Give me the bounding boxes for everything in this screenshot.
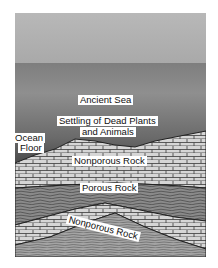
porous-rock-label: Porous Rock [80,183,138,193]
nonporous-rock-top-label: Nonporous Rock [72,156,147,166]
strata-illustration: Ancient Sea Settling of Dead Plants and … [15,13,206,257]
settling-label-line2: and Animals [80,127,136,137]
settling-label-line1: Settling of Dead Plants [57,116,158,126]
ancient-sea-label: Ancient Sea [78,95,133,105]
ocean-floor-label-line2: Floor [18,143,44,153]
